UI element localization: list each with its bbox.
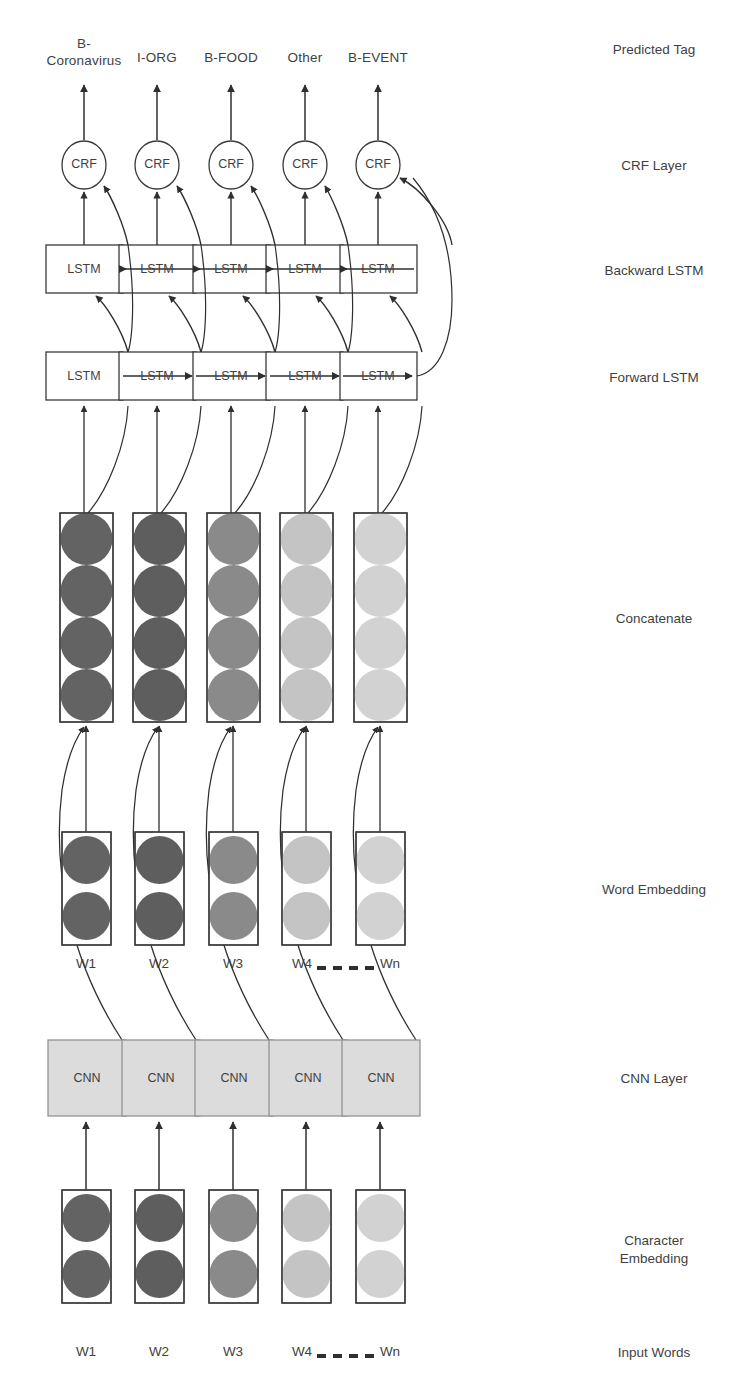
character-embedding-vector <box>209 1190 258 1303</box>
word-label-bottom: W2 <box>129 1344 189 1359</box>
crf-node <box>135 141 179 189</box>
word-embedding-vector <box>62 832 111 945</box>
dash-mark <box>349 1354 358 1358</box>
row-label-input-words: Input Words <box>569 1344 739 1362</box>
dash-mark <box>333 1354 342 1358</box>
concat-vector <box>354 513 407 722</box>
word-embedding-to-concat-edges <box>86 726 380 832</box>
row-label-predicted-tag: Predicted Tag <box>569 41 739 59</box>
lstm-node <box>46 245 123 293</box>
character-embedding-vector <box>135 1190 184 1303</box>
character-embedding-vector <box>282 1190 331 1303</box>
word-label-bottom: W1 <box>56 1344 116 1359</box>
crf-node <box>62 141 106 189</box>
word-label-bottom: Wn <box>360 1344 420 1359</box>
row-label-word-embedding: Word Embedding <box>569 881 739 899</box>
row-label-cnn-layer: CNN Layer <box>569 1070 739 1088</box>
crf-node <box>209 141 253 189</box>
cnn-node <box>195 1040 273 1116</box>
cnn-layer-nodes <box>48 1040 420 1116</box>
predicted-tag-label: B-EVENT <box>338 50 418 67</box>
concatenate-vectors <box>60 513 407 722</box>
cnn-node <box>269 1040 347 1116</box>
diagram-page: B- Coronavirus I-ORG B-FOOD Other B-EVEN… <box>0 0 739 1397</box>
concat-vector <box>133 513 186 722</box>
word-embedding-vector <box>282 832 331 945</box>
cnn-node <box>342 1040 420 1116</box>
dash-mark <box>317 966 326 970</box>
forward-to-backward-edges <box>96 296 422 352</box>
row-label-crf-layer: CRF Layer <box>569 157 739 175</box>
lstm-node <box>46 352 123 400</box>
character-embedding-vector <box>62 1190 111 1303</box>
concat-vector <box>207 513 260 722</box>
word-embedding-vector <box>209 832 258 945</box>
concatenate-to-lstm-edges <box>84 406 422 513</box>
character-embedding-vectors <box>62 1190 405 1303</box>
dash-mark <box>317 1354 326 1358</box>
predicted-tag-label: B-FOOD <box>191 50 271 67</box>
architecture-diagram-svg <box>0 0 739 1397</box>
crf-node <box>283 141 327 189</box>
concat-vector <box>60 513 113 722</box>
character-embedding-vector <box>356 1190 405 1303</box>
cnn-node <box>122 1040 200 1116</box>
cnn-node <box>48 1040 126 1116</box>
row-label-concatenate: Concatenate <box>569 610 739 628</box>
dash-mark <box>333 966 342 970</box>
crf-node <box>356 141 400 189</box>
crf-layer-nodes <box>62 141 400 189</box>
word-embedding-vector <box>135 832 184 945</box>
word-label-middle: Wn <box>360 956 420 971</box>
word-embedding-vector <box>356 832 405 945</box>
row-label-forward-lstm: Forward LSTM <box>569 369 739 387</box>
word-label-bottom: W3 <box>203 1344 263 1359</box>
row-label-backward-lstm: Backward LSTM <box>569 262 739 280</box>
predicted-tag-label: Other <box>265 50 345 67</box>
predicted-tag-label: I-ORG <box>117 50 197 67</box>
forward-lstm-to-crf-edges <box>84 192 378 245</box>
word-label-middle: W3 <box>203 956 263 971</box>
dash-mark <box>349 966 358 970</box>
word-label-middle: W1 <box>56 956 116 971</box>
concat-vector <box>280 513 333 722</box>
predicted-tag-arrows <box>84 85 378 140</box>
row-label-character-embedding: Character Embedding <box>569 1232 739 1267</box>
word-label-middle: W2 <box>129 956 189 971</box>
